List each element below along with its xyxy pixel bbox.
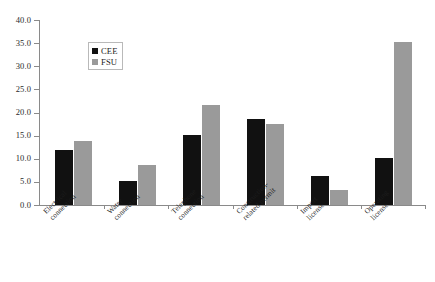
legend-item-cee: CEE bbox=[92, 45, 118, 56]
y-axis-tick-label: 15.0 bbox=[16, 131, 31, 140]
chart-legend: CEE FSU bbox=[88, 42, 123, 70]
bar-fsu bbox=[394, 42, 412, 205]
bar-chart: 0.05.010.015.020.025.030.035.040.0 Elect… bbox=[0, 0, 435, 282]
y-axis-tick bbox=[34, 182, 39, 183]
bar-fsu bbox=[202, 105, 220, 205]
bar-fsu bbox=[330, 190, 348, 205]
y-axis-tick bbox=[34, 89, 39, 90]
y-axis-tick bbox=[34, 113, 39, 114]
legend-label-cee: CEE bbox=[101, 46, 118, 56]
y-axis-tick bbox=[34, 20, 39, 21]
y-axis-tick-label: 25.0 bbox=[16, 85, 31, 94]
y-axis-tick-label: 30.0 bbox=[16, 62, 31, 71]
y-axis-tick-label: 20.0 bbox=[16, 108, 31, 117]
legend-item-fsu: FSU bbox=[92, 56, 118, 67]
legend-swatch-fsu-icon bbox=[92, 59, 98, 65]
y-axis-tick bbox=[34, 136, 39, 137]
y-axis-tick-label: 5.0 bbox=[20, 177, 31, 186]
y-axis-tick bbox=[34, 159, 39, 160]
x-axis-separator bbox=[425, 205, 426, 209]
y-axis-tick bbox=[34, 66, 39, 67]
y-axis-tick-label: 40.0 bbox=[16, 16, 31, 25]
y-axis-tick bbox=[34, 43, 39, 44]
y-axis-tick bbox=[34, 205, 39, 206]
y-axis-tick-label: 35.0 bbox=[16, 39, 31, 48]
y-axis-tick-label: 0.0 bbox=[20, 201, 31, 210]
legend-label-fsu: FSU bbox=[101, 57, 117, 67]
legend-swatch-cee-icon bbox=[92, 48, 98, 54]
y-axis-tick-label: 10.0 bbox=[16, 154, 31, 163]
bar-fsu bbox=[74, 141, 92, 205]
